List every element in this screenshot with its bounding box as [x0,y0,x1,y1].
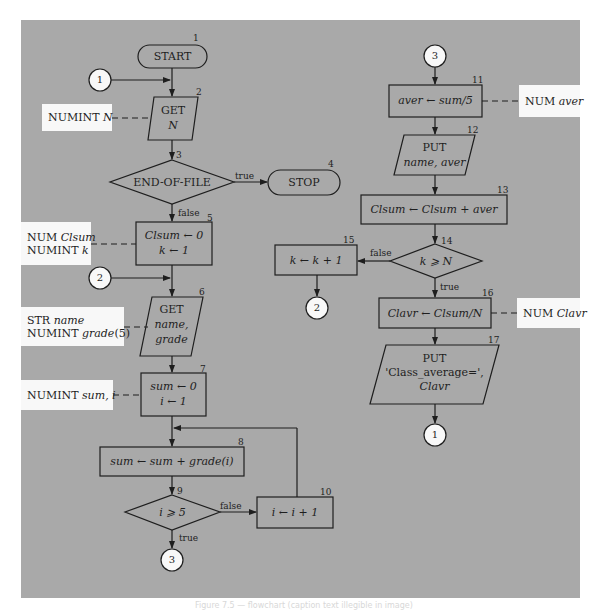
start-label: START [138,50,207,63]
step-number: 2 [196,87,202,97]
get-n-line2: N [148,119,198,132]
put-class-avg-line2: 'Class_average=', [370,366,499,379]
test-i-false-label: false [220,501,242,511]
decl-sum-i: NUMINT sum, i [21,380,113,410]
eof-label: END-OF-FILE [110,176,234,189]
step-number: 10 [320,487,331,497]
step-number: 4 [328,159,334,169]
put-class-avg-line3: Clavr [370,380,499,393]
step-number: 12 [467,125,478,135]
init-sum-line2: i ← 1 [141,395,206,408]
step-number: 8 [238,437,244,447]
step-number: 11 [472,75,483,85]
test-k-false-label: false [370,248,392,258]
connector-3-in-label: 3 [429,51,441,61]
incr-i-label: i ← i + 1 [257,506,333,519]
test-i-true-label: true [179,533,198,543]
step-number: 15 [343,235,354,245]
init-clsum-line2: k ← 1 [136,244,212,257]
connector-2-out-label: 2 [311,303,323,313]
stop-label: STOP [268,176,340,189]
decl-aver: NUM aver [519,85,580,117]
init-clsum-line1: Clsum ← 0 [136,229,212,242]
step-number: 3 [176,150,182,160]
accumulate-label: sum ← sum + grade(i) [100,455,244,468]
put-name-aver-line1: PUT [394,141,475,154]
decl-name-grade: STR name NUMINT grade(5) [21,307,124,346]
put-class-avg-line1: PUT [370,352,499,365]
aver-label: aver ← sum/5 [389,94,482,107]
decl-clsum-k: NUM Clsum NUMINT k [21,222,91,265]
put-name-aver-line2: name, aver [394,156,475,169]
get-name-grade-line1: GET [140,303,203,316]
step-number: 6 [199,287,205,297]
decl-clavr: NUM Clavr [517,298,580,328]
clsum-add-label: Clsum ← Clsum + aver [361,203,507,216]
step-number: 16 [482,288,493,298]
test-i-label: i ⩾ 5 [125,506,220,519]
step-number: 13 [497,185,508,195]
step-number: 7 [200,364,206,374]
test-k-label: k ⩾ N [390,255,482,268]
step-number: 9 [177,486,183,496]
step-number: 14 [441,236,452,246]
step-number: 17 [488,335,499,345]
step-number: 1 [193,33,199,43]
figure-caption: Figure 7.5 — flowchart (caption text ill… [195,601,575,610]
test-k-true-label: true [440,282,459,292]
connector-1-out-label: 1 [429,430,441,440]
init-sum-line1: sum ← 0 [141,380,206,393]
step-number: 5 [207,213,213,223]
connector-2-in-label: 2 [94,273,106,283]
eof-false-label: false [178,208,200,218]
connector-3-out-label: 3 [166,555,178,565]
incr-k-label: k ← k + 1 [275,254,357,267]
get-name-grade-line2: name, [140,318,203,331]
decl-numint-n: NUMINT N [42,104,112,131]
get-n-line1: GET [148,104,198,117]
clavr-label: Clavr ← Clsum/N [379,307,491,320]
eof-true-label: true [235,171,254,181]
get-name-grade-line3: grade [140,333,203,346]
connector-1-in-label: 1 [94,75,106,85]
